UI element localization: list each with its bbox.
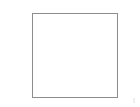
square-inner-content [33,14,117,97]
faint-corner-artifact-icon [133,98,135,103]
page-canvas [0,0,140,107]
empty-square-outline[interactable] [32,13,118,98]
